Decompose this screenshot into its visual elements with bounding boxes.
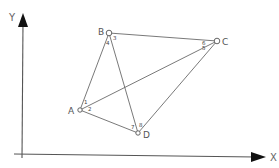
x-axis [14, 154, 256, 157]
y-axis [22, 22, 23, 158]
x-axis-arrowhead-icon [251, 152, 266, 162]
point-b [106, 30, 112, 36]
point-a-label: A [68, 106, 75, 116]
y-axis-label: Y [8, 12, 16, 23]
point-d [136, 131, 140, 135]
x-axis-label: X [270, 152, 277, 163]
angle-label-1: 1 [84, 99, 88, 105]
angle-label-8: 8 [139, 122, 143, 128]
point-d-label: D [143, 130, 150, 140]
point-b-label: B [98, 27, 104, 37]
angle-label-6: 6 [202, 40, 206, 46]
point-c-label: C [222, 37, 228, 47]
point-c [214, 38, 220, 44]
angle-label-4: 4 [106, 40, 110, 46]
edge-b-c [109, 33, 217, 41]
point-a [78, 108, 82, 112]
angle-label-3: 3 [113, 35, 117, 41]
edge-c-d [138, 41, 217, 133]
edge-a-c [80, 41, 217, 110]
y-axis-arrowhead-icon [18, 13, 28, 27]
angle-label-7: 7 [131, 124, 135, 130]
coordinate-diagram: Y X A B C D 1 2 3 4 5 6 7 8 [0, 0, 279, 168]
edge-a-d [80, 110, 138, 133]
angle-label-2: 2 [88, 106, 92, 112]
